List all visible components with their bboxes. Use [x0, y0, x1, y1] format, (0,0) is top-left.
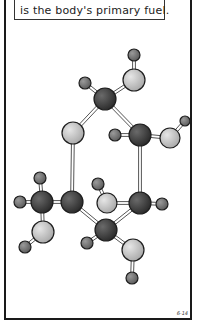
oxygen-atom-icon [122, 239, 144, 261]
hydrogen-atom-icon [81, 237, 93, 249]
oxygen-atom-icon [123, 69, 145, 91]
hydrogen-atom-icon [92, 178, 104, 190]
carbon-atom-icon [95, 219, 117, 241]
glucose-molecule-diagram [0, 0, 198, 324]
oxygen-atom-icon [160, 128, 180, 148]
hydrogen-atom-icon [34, 172, 46, 184]
hydrogen-atom-icon [79, 77, 91, 89]
figure-label: 6-14 [177, 310, 188, 316]
carbon-atom-icon [129, 192, 151, 214]
hydrogen-atom-icon [14, 196, 26, 208]
carbon-atom-icon [31, 191, 53, 213]
hydrogen-atom-icon [180, 116, 190, 126]
hydrogen-atom-icon [126, 272, 138, 284]
carbon-atom-icon [61, 191, 83, 213]
carbon-atom-icon [94, 88, 116, 110]
carbon-atom-icon [129, 124, 151, 146]
hydrogen-atom-icon [156, 198, 168, 210]
hydrogen-atom-icon [19, 241, 31, 253]
oxygen-atom-icon [62, 122, 84, 144]
atoms-layer [14, 49, 190, 284]
hydrogen-atom-icon [128, 49, 140, 61]
hydrogen-atom-icon [109, 129, 121, 141]
oxygen-atom-icon [97, 193, 117, 213]
oxygen-atom-icon [32, 221, 54, 243]
